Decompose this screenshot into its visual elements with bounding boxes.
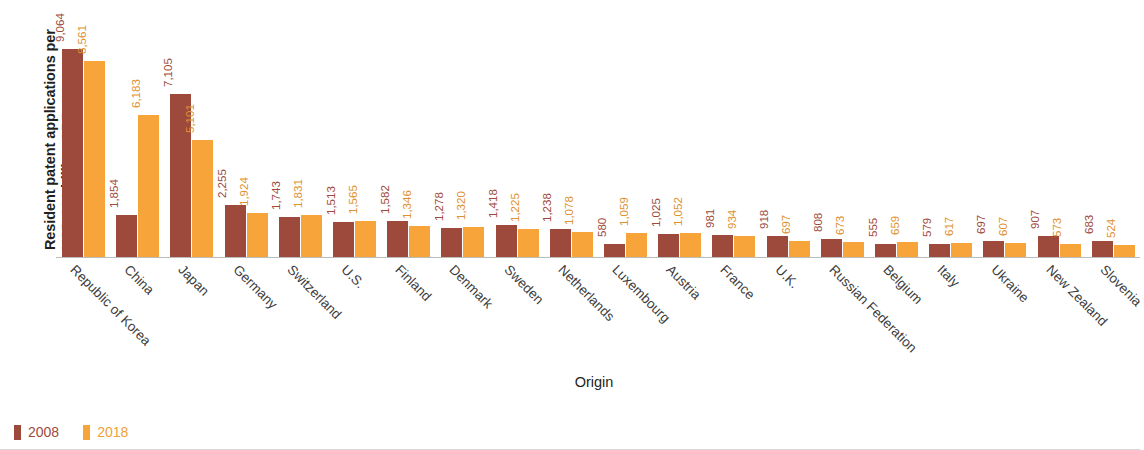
category-label: Sweden xyxy=(501,262,546,307)
bar-2018[interactable]: 617 xyxy=(951,243,972,257)
bar-2008[interactable]: 697 xyxy=(983,241,1004,257)
bar-value-label: 1,238 xyxy=(541,193,553,226)
bar-value-label: 8,561 xyxy=(76,25,88,58)
bar-2008[interactable]: 1,278 xyxy=(441,228,462,257)
bar-value-label: 580 xyxy=(596,218,608,241)
bar-value-label: 659 xyxy=(889,216,901,239)
bar-group: 808673 xyxy=(821,17,864,257)
bar-2018[interactable]: 1,320 xyxy=(463,227,484,257)
bar-2008[interactable]: 1,582 xyxy=(387,221,408,257)
bar-group: 1,7431,831 xyxy=(279,17,322,257)
bar-2018[interactable]: 934 xyxy=(734,236,755,257)
category-label: Slovenia xyxy=(1097,262,1144,309)
bar-2008[interactable]: 981 xyxy=(712,235,733,258)
legend-item-2018[interactable]: 2018 xyxy=(83,424,128,440)
bar-value-label: 524 xyxy=(1105,219,1117,242)
bar-value-label: 1,565 xyxy=(347,185,359,218)
bar-2018[interactable]: 1,059 xyxy=(626,233,647,257)
bar-2018[interactable]: 524 xyxy=(1114,245,1135,257)
bar-value-label: 934 xyxy=(726,209,738,232)
bar-value-label: 573 xyxy=(1051,218,1063,241)
bar-value-label: 1,078 xyxy=(563,197,575,230)
bar-value-label: 1,059 xyxy=(618,197,630,230)
bar-group: 1,5821,346 xyxy=(387,17,430,257)
bar-value-label: 1,854 xyxy=(108,179,120,212)
bar-value-label: 2,255 xyxy=(216,170,228,203)
bar-group: 7,1055,101 xyxy=(170,17,213,257)
bar-2018[interactable]: 1,052 xyxy=(680,233,701,257)
bar-2018[interactable]: 673 xyxy=(843,242,864,257)
bar-group: 1,2781,320 xyxy=(441,17,484,257)
category-label: U.S. xyxy=(338,262,367,291)
bar-group: 1,0251,052 xyxy=(658,17,701,257)
bar-value-label: 918 xyxy=(758,210,770,233)
bar-group: 5801,059 xyxy=(604,17,647,257)
bar-2018[interactable]: 573 xyxy=(1060,244,1081,257)
bar-2018[interactable]: 659 xyxy=(897,242,918,257)
bar-group: 981934 xyxy=(712,17,755,257)
category-label: U.K. xyxy=(772,262,801,291)
category-label: China xyxy=(122,262,158,298)
bar-2008[interactable]: 579 xyxy=(929,244,950,257)
bar-group: 555659 xyxy=(875,17,918,257)
bar-value-label: 907 xyxy=(1029,210,1041,233)
bar-2008[interactable]: 1,854 xyxy=(116,215,137,258)
bar-2018[interactable]: 6,183 xyxy=(138,115,159,257)
category-label: Switzerland xyxy=(284,262,344,322)
bar-group: 2,2551,924 xyxy=(225,17,268,257)
bar-group: 683524 xyxy=(1092,17,1135,257)
bar-2008[interactable]: 1,025 xyxy=(658,234,679,258)
bar-2008[interactable]: 9,064 xyxy=(62,49,83,257)
bar-2018[interactable]: 697 xyxy=(789,241,810,257)
bar-value-label: 1,418 xyxy=(487,189,499,222)
bar-2018[interactable]: 1,225 xyxy=(518,229,539,257)
bar-value-label: 5,101 xyxy=(184,104,196,137)
bar-value-label: 673 xyxy=(834,215,846,238)
bar-value-label: 1,278 xyxy=(433,192,445,225)
bar-2008[interactable]: 2,255 xyxy=(225,205,246,257)
bar-value-label: 555 xyxy=(867,218,879,241)
category-label: Austria xyxy=(664,262,704,302)
bar-group: 579617 xyxy=(929,17,972,257)
bar-2018[interactable]: 1,831 xyxy=(301,215,322,257)
x-axis-title: Origin xyxy=(0,374,1140,390)
chart-legend: 20082018 xyxy=(14,424,128,440)
legend-label: 2018 xyxy=(97,424,128,440)
bar-value-label: 1,052 xyxy=(672,197,684,230)
bar-2008[interactable]: 918 xyxy=(767,236,788,257)
bar-2018[interactable]: 8,561 xyxy=(84,61,105,258)
bar-value-label: 617 xyxy=(943,217,955,240)
bar-group: 918697 xyxy=(767,17,810,257)
bar-2018[interactable]: 607 xyxy=(1005,243,1026,257)
bar-2008[interactable]: 555 xyxy=(875,244,896,257)
bar-2008[interactable]: 808 xyxy=(821,239,842,258)
x-axis-category-labels: Republic of KoreaChinaJapanGermanySwitze… xyxy=(56,260,1140,370)
bar-2008[interactable]: 1,418 xyxy=(496,225,517,258)
bar-2018[interactable]: 1,346 xyxy=(409,226,430,257)
bar-2018[interactable]: 1,565 xyxy=(355,221,376,257)
bar-value-label: 697 xyxy=(975,215,987,238)
bar-group: 1,5131,565 xyxy=(333,17,376,257)
bar-group: 9,0648,561 xyxy=(62,17,105,257)
bar-value-label: 6,183 xyxy=(130,79,142,112)
bar-2018[interactable]: 1,924 xyxy=(247,213,268,257)
bar-value-label: 1,320 xyxy=(455,191,467,224)
category-label: Japan xyxy=(176,262,213,299)
bar-value-label: 1,025 xyxy=(650,198,662,231)
bar-2018[interactable]: 1,078 xyxy=(572,232,593,257)
bar-2008[interactable]: 1,743 xyxy=(279,217,300,257)
bar-value-label: 1,346 xyxy=(401,190,413,223)
bar-value-label: 683 xyxy=(1083,215,1095,238)
bar-value-label: 1,831 xyxy=(292,179,304,212)
bar-group: 907573 xyxy=(1038,17,1081,257)
category-label: Netherlands xyxy=(555,262,617,324)
bar-2008[interactable]: 1,513 xyxy=(333,222,354,257)
category-label: Denmark xyxy=(447,262,496,311)
bar-value-label: 1,743 xyxy=(270,181,282,214)
bar-2008[interactable]: 1,238 xyxy=(550,229,571,257)
bar-2018[interactable]: 5,101 xyxy=(192,140,213,257)
legend-item-2008[interactable]: 2008 xyxy=(14,424,59,440)
category-label: France xyxy=(718,262,758,302)
bar-2008[interactable]: 683 xyxy=(1092,241,1113,257)
bar-2008[interactable]: 580 xyxy=(604,244,625,257)
